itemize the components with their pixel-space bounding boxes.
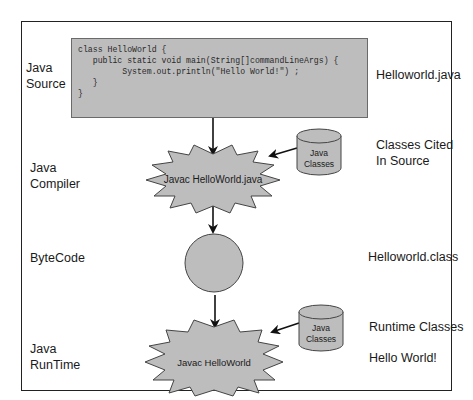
- compiler-node-label: Javac HelloWorld.java: [164, 174, 263, 185]
- java-classes-cylinder-compile: Java Classes: [297, 129, 341, 175]
- runtime-node-label: Javac HelloWorld: [177, 357, 251, 368]
- compiler-starburst: Javac HelloWorld.java: [146, 145, 280, 213]
- flow-diagram: Javac HelloWorld.java Javac HelloWorld J…: [0, 0, 473, 400]
- arrow-classes-to-compiler: [270, 148, 297, 156]
- arrow-classes-to-runtime: [272, 323, 299, 332]
- runtime-starburst: Javac HelloWorld: [145, 320, 283, 396]
- bytecode-circle: [185, 234, 243, 292]
- cylinder-label: Classes: [304, 159, 334, 169]
- cylinder-label: Java: [310, 148, 328, 158]
- java-classes-cylinder-runtime: Java Classes: [299, 305, 343, 351]
- cylinder-label: Classes: [306, 334, 336, 344]
- cylinder-label: Java: [312, 323, 330, 333]
